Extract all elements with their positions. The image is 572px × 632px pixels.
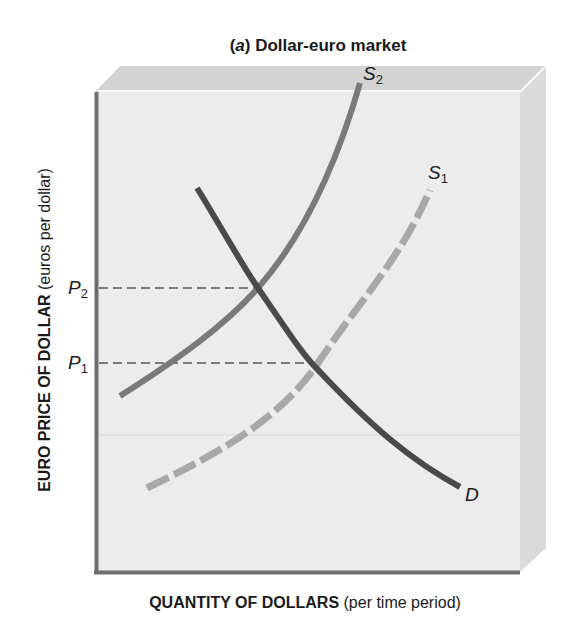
d-label: D — [465, 484, 479, 506]
s1-label: S1 — [428, 162, 448, 186]
s2-label: S2 — [363, 63, 383, 87]
box-top-face — [95, 66, 546, 92]
x-axis-label: QUANTITY OF DOLLARS (per time period) — [0, 594, 572, 612]
y-axis-label: EURO PRICE OF DOLLAR (euros per dollar) — [36, 168, 54, 492]
chart-canvas — [0, 0, 572, 632]
p1-label: P1 — [68, 352, 88, 376]
p2-label: P2 — [68, 277, 88, 301]
box-side-face — [520, 66, 546, 572]
plot-area — [97, 92, 520, 572]
